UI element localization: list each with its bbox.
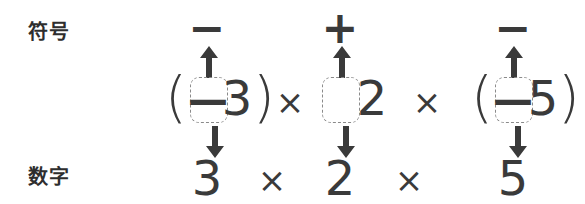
- sign-term-1: −: [189, 6, 226, 50]
- number-term-3: 5: [498, 154, 529, 202]
- expression-operator-1: ×: [276, 85, 305, 119]
- term-1-digit: 3: [222, 74, 253, 122]
- term-2-sign-highlight-box: [322, 77, 360, 123]
- row-label-sign: 符号: [28, 16, 70, 45]
- number-term-2: 2: [325, 154, 356, 202]
- term-3-open-paren: (: [471, 69, 493, 125]
- term-3-close-paren: ): [558, 69, 580, 125]
- number-operator-2: ×: [395, 163, 424, 197]
- sign-number-decomposition-diagram: 符号 数字 − + − ( — 3 ) × 2 × ( — 5 ): [0, 0, 585, 204]
- number-operator-1: ×: [258, 163, 287, 197]
- term-1-close-paren: ): [253, 69, 275, 125]
- term-1-open-paren: (: [165, 69, 187, 125]
- up-arrow-term-2: [332, 46, 352, 78]
- sign-term-3: −: [495, 6, 532, 50]
- expression-operator-2: ×: [413, 85, 442, 119]
- up-arrow-term-1: [199, 46, 219, 78]
- number-term-1: 3: [192, 154, 223, 202]
- term-3-digit: 5: [528, 74, 559, 122]
- term-2-digit: 2: [357, 74, 388, 122]
- row-label-number: 数字: [28, 161, 70, 190]
- up-arrow-term-3: [504, 46, 524, 78]
- sign-term-2: +: [322, 6, 359, 50]
